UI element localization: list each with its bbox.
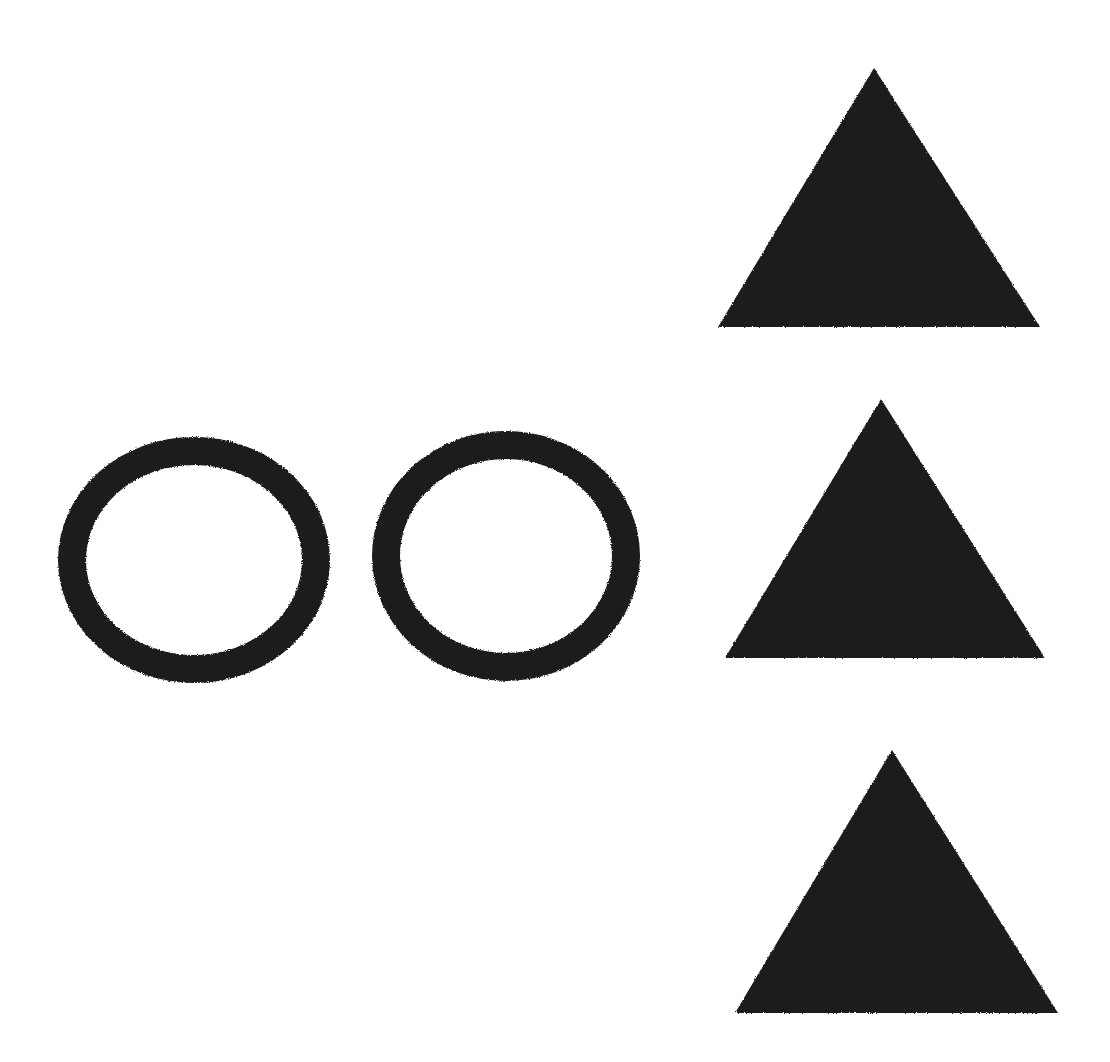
figure-canvas xyxy=(0,0,1110,1062)
shapes-svg xyxy=(0,0,1110,1062)
